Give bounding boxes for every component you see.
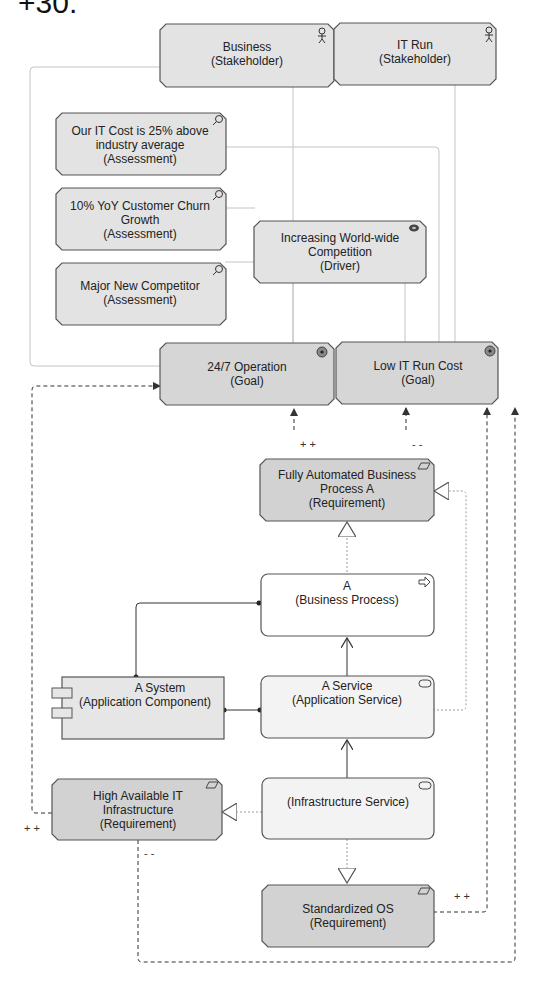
node-label-2: industry average [96,138,185,152]
node-label: A System [135,681,186,695]
node-label: Business [223,40,272,54]
node-label: Our IT Cost is 25% above [71,124,209,138]
node-label: IT Run [397,38,433,52]
node-type: (Assessment) [103,227,176,241]
influence-label-ha-cost: - - [144,847,155,859]
archimate-diagram: Business (Stakeholder) IT Run (Stakehold… [0,0,558,985]
node-label: Increasing World-wide [281,231,400,245]
node-type: (Business Process) [295,593,398,607]
node-type: (Requirement) [310,916,387,930]
node-label-2: Growth [121,213,160,227]
node-a-business-process[interactable]: A (Business Process) [261,574,434,636]
node-label: High Available IT [93,789,184,803]
node-type: (Requirement) [309,496,386,510]
node-high-available-requirement[interactable]: High Available IT Infrastructure (Requir… [52,779,222,840]
node-label: 10% YoY Customer Churn [70,199,210,213]
node-business-stakeholder[interactable]: Business (Stakeholder) [160,24,334,87]
node-label-2: Process A [320,482,374,496]
node-label: 24/7 Operation [207,360,286,374]
node-label-2: Competition [308,245,372,259]
node-type: (Assessment) [103,152,176,166]
node-type: (Driver) [320,259,360,273]
node-label: Major New Competitor [80,279,199,293]
node-type: (Stakeholder) [211,54,283,68]
node-type: (Assessment) [103,293,176,307]
node-it-cost-assessment[interactable]: Our IT Cost is 25% above industry averag… [56,113,226,175]
node-label: Standardized OS [302,902,393,916]
node-infrastructure-service[interactable]: (Infrastructure Service) [262,778,434,839]
node-label: Low IT Run Cost [373,359,463,373]
node-type: (Goal) [401,373,434,387]
node-competition-driver[interactable]: Increasing World-wide Competition (Drive… [254,221,426,283]
driver-icon [409,225,419,232]
influence-label-os-cost: + + [454,890,470,902]
target-icon [317,347,327,357]
node-type: (Application Service) [292,693,402,707]
node-it-run-stakeholder[interactable]: IT Run (Stakeholder) [334,23,496,85]
node-247-operation-goal[interactable]: 24/7 Operation (Goal) [160,343,334,405]
node-low-it-run-cost-goal[interactable]: Low IT Run Cost (Goal) [336,342,498,404]
node-label: A [343,579,351,593]
node-a-application-service[interactable]: A Service (Application Service) [261,676,434,738]
influence-label-ha-247: + + [24,822,40,834]
node-competitor-assessment[interactable]: Major New Competitor (Assessment) [56,263,226,325]
node-label: Fully Automated Business [278,468,416,482]
node-label-2: Infrastructure [103,803,174,817]
node-churn-assessment[interactable]: 10% YoY Customer Churn Growth (Assessmen… [56,188,226,250]
node-type: (Goal) [230,374,263,388]
node-type: (Requirement) [100,817,177,831]
influence-label-auto-cost: - - [412,438,423,450]
node-standardized-os-requirement[interactable]: Standardized OS (Requirement) [262,885,434,947]
node-a-system-component[interactable]: A System (Application Component) [52,677,224,739]
node-label: (Infrastructure Service) [287,795,409,809]
node-type: (Stakeholder) [379,52,451,66]
target-icon [485,346,495,356]
node-label: A Service [322,679,373,693]
influence-label-auto-247: + + [300,438,316,450]
node-fully-automated-requirement[interactable]: Fully Automated Business Process A (Requ… [260,459,434,521]
node-type: (Application Component) [79,695,211,709]
